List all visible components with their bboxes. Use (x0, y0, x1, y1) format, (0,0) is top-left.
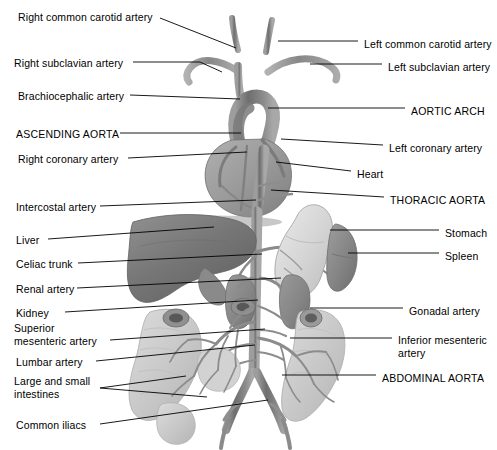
label-right-coronary-artery: Right coronary artery (18, 153, 118, 166)
left-subclavian-vessel (268, 59, 337, 80)
thoracic-aorta-vessel (257, 150, 264, 212)
label-spleen: Spleen (445, 250, 478, 263)
label-right-common-carotid-artery: Right common carotid artery (18, 11, 153, 24)
great-vessels-group (187, 18, 337, 148)
right-common-carotid-vessel (232, 18, 238, 50)
label-left-common-carotid-artery: Left common carotid artery (364, 38, 492, 51)
label-superior-mesenteric-artery: Superior mesenteric artery (14, 322, 97, 347)
label-lumbar-artery: Lumbar artery (16, 356, 83, 369)
label-kidney: Kidney (16, 307, 49, 320)
label-right-subclavian-artery: Right subclavian artery (14, 57, 123, 70)
brachiocephalic-vessel (238, 66, 241, 99)
label-large-and-small-intestines: Large and small intestines (14, 375, 90, 400)
label-intercostal-artery: Intercostal artery (16, 201, 96, 214)
label-stomach: Stomach (445, 227, 487, 240)
label-abdominal-aorta: ABDOMINAL AORTA (382, 372, 484, 385)
cecum-organ (157, 403, 195, 445)
heart-organ (205, 139, 291, 217)
label-inferior-mesenteric-artery: Inferior mesenteric artery (398, 334, 487, 359)
label-common-iliacs: Common iliacs (16, 419, 86, 432)
label-brachiocephalic-artery: Brachiocephalic artery (18, 90, 124, 103)
spleen-organ (327, 224, 357, 291)
label-aortic-arch: AORTIC ARCH (411, 105, 485, 118)
left-common-carotid-vessel (266, 20, 272, 52)
ascending-aorta-vessel (238, 108, 249, 142)
label-celiac-trunk: Celiac trunk (16, 258, 73, 271)
left-common-iliac-vessel (257, 372, 284, 430)
leader-line-right-common-carotid-artery (160, 18, 236, 48)
label-renal-artery: Renal artery (16, 283, 74, 296)
label-left-coronary-artery: Left coronary artery (389, 142, 482, 155)
leader-line-brachiocephalic-artery (130, 95, 240, 99)
leader-line-left-coronary-artery (281, 139, 383, 145)
label-liver: Liver (16, 234, 39, 247)
label-left-subclavian-artery: Left subclavian artery (388, 61, 490, 74)
label-gonadal-artery: Gonadal artery (409, 305, 480, 318)
label-ascending-aorta: ASCENDING AORTA (16, 128, 119, 141)
right-subclavian-vessel (187, 61, 236, 82)
label-heart: Heart (357, 168, 383, 181)
aorta-anatomy-diagram: Right common carotid arteryRight subclav… (0, 0, 497, 450)
label-thoracic-aorta: THORACIC AORTA (390, 194, 485, 207)
